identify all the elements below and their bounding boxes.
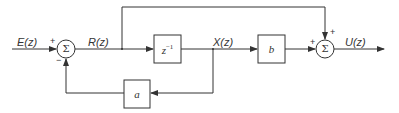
gain-b-label: b (258, 44, 285, 55)
signal-label-u: U(z) (345, 37, 366, 48)
signal-label-r: R(z) (88, 37, 109, 48)
sum1-plus-sign: + (50, 37, 55, 46)
branch-point-x (212, 48, 214, 50)
sum2-plus-top-sign: + (330, 28, 335, 37)
sum1-minus-sign: − (56, 56, 61, 65)
signal-label-x: X(z) (213, 37, 233, 48)
delay-exponent: −1 (166, 43, 173, 51)
branch-point-r (121, 48, 123, 50)
delay-block-label: z−1 (154, 44, 181, 56)
sigma-symbol-2: Σ (319, 44, 331, 54)
signal-label-e: E(z) (17, 37, 37, 48)
gain-a-label: a (124, 89, 150, 100)
sigma-symbol-1: Σ (60, 44, 72, 54)
sum2-plus-left-sign: + (310, 38, 315, 47)
feedback-path-to-sum (66, 59, 124, 93)
